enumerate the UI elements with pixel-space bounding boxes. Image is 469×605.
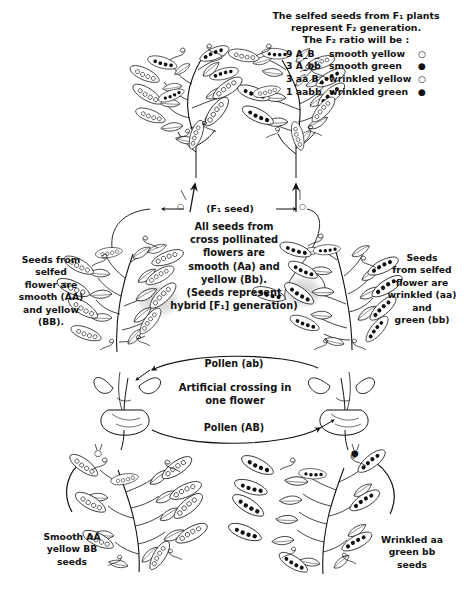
left-note-line-3: flower are [8, 279, 94, 291]
f2-genotype: 1 aabb [286, 86, 326, 99]
arrow-parent-left-to-seed [67, 460, 84, 512]
br-note-line-2: green bb [362, 546, 462, 558]
center-note-line-6: (Seeds represent [148, 286, 320, 299]
center-note-line-7: hybrid [F₁] generation) [148, 299, 320, 312]
right-note-line-6: green (bb) [378, 314, 466, 326]
arrow-into-right-flower [320, 420, 334, 428]
f2-generation-note: The selfed seeds from F₁ plants represen… [248, 10, 464, 98]
parent-left-caption: Smooth AA yellow BB seeds [24, 531, 120, 568]
left-note-line-1: Seeds from [8, 254, 94, 266]
f2-seed-marker: ● [418, 86, 426, 99]
parent-right-caption: Wrinkled aa green bb seeds [362, 534, 462, 571]
f2-genotype: 3 aa B_ [286, 73, 326, 86]
pollen-AB-label: Pollen (AB) [186, 422, 282, 433]
f2-ratio-row: 1 aabb wrinkled green ● [286, 86, 426, 99]
cross-note-line-2: one flower [166, 394, 304, 407]
pollen-ab-label: Pollen (ab) [186, 358, 282, 369]
f2-ratio-list: 9 A_B_ smooth yellow ○ 3 A_bb smooth gre… [286, 48, 426, 99]
right-note-line-2: from selfed [378, 264, 466, 276]
f2-note-line-2: represent F₂ generation. [248, 22, 464, 34]
right-selfed-seeds-note: Seeds from selfed flower are wrinkled (a… [378, 252, 466, 327]
f1-hybrid-note: All seeds from cross pollinated flowers … [148, 220, 320, 313]
f2-phenotype: smooth yellow [329, 48, 415, 61]
f1-seed-label: (F₁ seed) [185, 203, 275, 214]
f2-ratio-row: 9 A_B_ smooth yellow ○ [286, 48, 426, 61]
f2-phenotype: wrinkled green [329, 86, 415, 99]
f2-seed-marker: ● [418, 60, 426, 73]
left-note-line-5: and yellow [8, 304, 94, 316]
bl-note-line-2: yellow BB [24, 543, 120, 555]
f2-seed-marker: ○ [418, 73, 426, 86]
center-note-line-4: smooth (Aa) and [148, 260, 320, 273]
diagram-canvas: ○ ○ ○ ● The selfed seeds from F₁ plants … [0, 0, 469, 605]
left-note-line-2: selfed [8, 266, 94, 278]
br-note-line-1: Wrinkled aa [362, 534, 462, 546]
f2-ratio-row: 3 aa B_ wrinkled yellow ○ [286, 73, 426, 86]
f2-phenotype: wrinkled yellow [329, 73, 415, 86]
f2-note-line-1: The selfed seeds from F₁ plants [248, 10, 464, 22]
br-note-line-3: seeds [362, 559, 462, 571]
right-note-line-4: wrinkled (aa) [378, 289, 466, 301]
bl-note-line-1: Smooth AA [24, 531, 120, 543]
center-note-line-1: All seeds from [148, 220, 320, 233]
left-selfed-seeds-note: Seeds from selfed flower are smooth (AA)… [8, 254, 94, 329]
f2-seed-marker: ○ [418, 48, 426, 61]
center-note-line-5: yellow (Bb). [148, 273, 320, 286]
f2-note-line-3: The F₂ ratio will be : [248, 34, 464, 46]
cross-note-line-1: Artificial crossing in [166, 381, 304, 394]
artificial-crossing-label: Artificial crossing in one flower [166, 381, 304, 407]
right-note-line-3: flower are [378, 277, 466, 289]
f2-genotype: 9 A_B_ [286, 48, 326, 61]
right-note-line-1: Seeds [378, 252, 466, 264]
f2-ratio-row: 3 A_bb smooth green ● [286, 60, 426, 73]
wrinkled-green-seed-marker-parent-right: ● [351, 449, 359, 458]
left-note-line-6: (BB). [8, 316, 94, 328]
f2-genotype: 3 A_bb [286, 60, 326, 73]
smooth-yellow-seed-marker-parent-left: ○ [94, 449, 102, 458]
flower-left-illustration [94, 372, 161, 450]
left-note-line-4: smooth (AA) [8, 291, 94, 303]
arrow-into-left-flower [136, 370, 150, 380]
smooth-yellow-seed-marker-f1-left: ○ [177, 203, 184, 211]
arrow-parent-right-to-seed [368, 458, 394, 514]
f2-phenotype: smooth green [329, 60, 415, 73]
smooth-yellow-seed-marker-f1-right: ○ [299, 203, 306, 211]
right-note-line-5: and [378, 302, 466, 314]
flower-right-illustration [308, 372, 374, 450]
curve-f1-left-to-seed [112, 209, 150, 248]
f2-plant-left-illustration [128, 43, 245, 178]
center-note-line-3: flowers are [148, 246, 320, 259]
bl-note-line-3: seeds [24, 556, 120, 568]
center-note-line-2: cross pollinated [148, 233, 320, 246]
